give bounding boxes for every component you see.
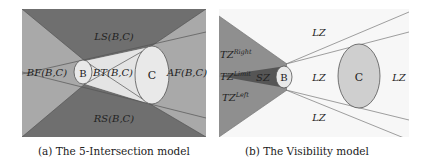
- label-rs: RS(B,C): [93, 113, 134, 124]
- label-lz-right: LZ: [391, 72, 407, 83]
- label-lz-top: LZ: [311, 27, 327, 38]
- label-object-c: C: [355, 71, 363, 84]
- label-object-c: C: [148, 69, 156, 82]
- label-object-b: B: [79, 68, 86, 79]
- label-af: AF(B,C): [166, 67, 207, 78]
- label-lz-bottom: LZ: [311, 112, 327, 123]
- label-ls: LS(B,C): [93, 31, 134, 42]
- five-intersection-diagram: LS(B,C) RS(B,C) BF(B,C) B BT(B,C) C AF(B…: [0, 0, 423, 166]
- label-lz-middle: LZ: [311, 72, 327, 83]
- label-bt: BT(B,C): [92, 67, 133, 78]
- caption-b: (b) The Visibility model: [245, 145, 369, 157]
- label-sz: SZ: [256, 72, 271, 83]
- label-object-b: B: [280, 72, 287, 83]
- caption-a: (a) The 5-Intersection model: [38, 145, 190, 157]
- label-bf: BF(B,C): [26, 67, 67, 78]
